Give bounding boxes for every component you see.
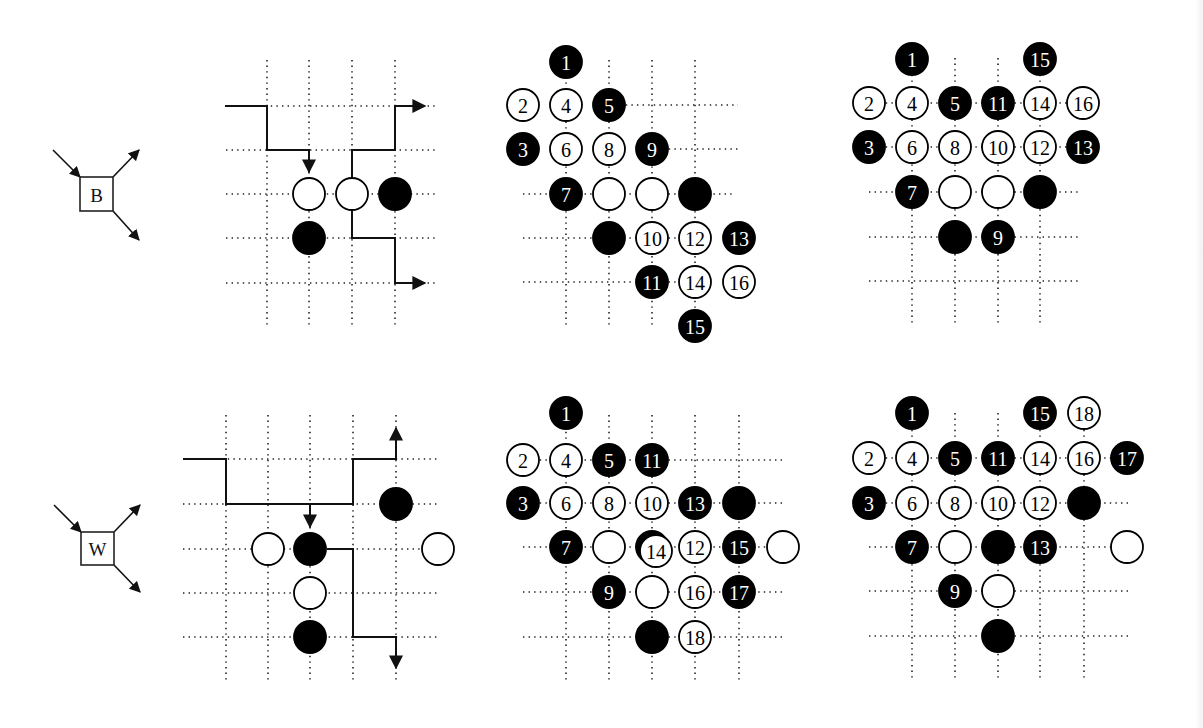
move-number: 5 <box>604 95 614 117</box>
move-number: 4 <box>907 93 917 115</box>
stone-icon <box>636 621 668 653</box>
black-stone-9: 9 <box>593 576 625 608</box>
white-stone <box>593 178 625 210</box>
black-stone-7: 7 <box>550 178 582 210</box>
white-stone <box>294 577 326 609</box>
output-arrow-icon <box>114 505 140 532</box>
stone-icon <box>1111 531 1143 563</box>
white-stone <box>252 533 284 565</box>
move-number: 7 <box>907 537 917 559</box>
black-stone-1: 1 <box>550 46 582 78</box>
stone-icon <box>636 178 668 210</box>
black-stone <box>939 221 971 253</box>
move-number: 7 <box>561 537 571 559</box>
move-number: 16 <box>729 272 749 294</box>
black-stone-13: 13 <box>723 222 755 254</box>
white-stone-16: 16 <box>1068 442 1100 474</box>
move-number: 16 <box>1074 448 1094 470</box>
black-stone-13: 13 <box>1024 531 1056 563</box>
white-stone-4: 4 <box>550 444 582 476</box>
move-number: 12 <box>1030 493 1050 515</box>
black-stone-9: 9 <box>636 133 668 165</box>
move-number: 15 <box>1030 49 1050 71</box>
stone-icon <box>336 178 368 210</box>
node-label: W <box>89 539 107 560</box>
move-number: 18 <box>685 627 705 649</box>
stone-icon <box>982 620 1014 652</box>
black-stone <box>293 222 325 254</box>
black-stone-11: 11 <box>982 87 1014 119</box>
move-number: 9 <box>604 582 614 604</box>
white-stone-14: 14 <box>1024 442 1056 474</box>
move-number: 10 <box>642 228 662 250</box>
stone-icon <box>939 176 971 208</box>
white-stone <box>767 531 799 563</box>
black-stone-3: 3 <box>507 487 539 519</box>
stone-icon <box>982 575 1014 607</box>
black-stone-7: 7 <box>896 176 928 208</box>
white-stone <box>939 176 971 208</box>
input-arrow-icon <box>54 505 81 532</box>
white-stone-16: 16 <box>679 576 711 608</box>
black-stone-3: 3 <box>853 487 885 519</box>
white-stone <box>636 178 668 210</box>
black-stone <box>636 621 668 653</box>
white-stone-2: 2 <box>853 87 885 119</box>
move-number: 6 <box>907 137 917 159</box>
move-number: 10 <box>988 137 1008 159</box>
node-label: B <box>90 185 103 206</box>
white-stone-4: 4 <box>896 442 928 474</box>
move-number: 3 <box>518 493 528 515</box>
stone-icon <box>593 178 625 210</box>
stone-icon <box>723 487 755 519</box>
black-stone-1: 1 <box>896 43 928 75</box>
white-stone-4: 4 <box>896 87 928 119</box>
black-stone-15: 15 <box>1024 397 1056 429</box>
move-number: 18 <box>1074 403 1094 425</box>
move-number: 6 <box>561 139 571 161</box>
move-number: 3 <box>864 493 874 515</box>
move-number: 14 <box>1030 93 1050 115</box>
stone-icon <box>939 221 971 253</box>
move-number: 5 <box>604 450 614 472</box>
stone-icon <box>380 488 412 520</box>
black-stone-17: 17 <box>723 576 755 608</box>
white-stone <box>982 575 1014 607</box>
black-stone-7: 7 <box>896 531 928 563</box>
move-number: 9 <box>993 227 1003 249</box>
white-stone <box>422 533 454 565</box>
black-stone <box>982 531 1014 563</box>
move-number: 13 <box>1073 137 1093 159</box>
stone-icon <box>1068 487 1100 519</box>
stone-icon <box>767 531 799 563</box>
black-stone-17: 17 <box>1111 442 1143 474</box>
move-number: 8 <box>604 139 614 161</box>
white-stone-14: 14 <box>679 266 711 298</box>
black-stone-15: 15 <box>723 531 755 563</box>
black-stone-15: 15 <box>679 310 711 342</box>
black-stone <box>723 487 755 519</box>
stone-icon <box>293 222 325 254</box>
route-arrow-right-icon <box>352 106 425 177</box>
white-stone-12: 12 <box>679 531 711 563</box>
stone-layer: 1234567891011121314151612345678910111213… <box>252 43 1143 653</box>
move-number: 2 <box>518 450 528 472</box>
move-number: 16 <box>685 582 705 604</box>
black-stone-11: 11 <box>636 266 668 298</box>
stone-icon <box>422 533 454 565</box>
black-stone <box>1068 487 1100 519</box>
move-number: 15 <box>729 537 749 559</box>
black-stone-1: 1 <box>896 397 928 429</box>
move-number: 2 <box>518 95 528 117</box>
white-stone-12: 12 <box>679 222 711 254</box>
white-stone-2: 2 <box>507 89 539 121</box>
move-number: 3 <box>864 137 874 159</box>
move-number: 1 <box>907 403 917 425</box>
white-stone-12: 12 <box>1024 487 1056 519</box>
white-stone-8: 8 <box>593 487 625 519</box>
black-stone-3: 3 <box>507 133 539 165</box>
stone-icon <box>636 576 668 608</box>
move-number: 15 <box>685 316 705 338</box>
black-stone-5: 5 <box>939 87 971 119</box>
black-stone-3: 3 <box>853 131 885 163</box>
